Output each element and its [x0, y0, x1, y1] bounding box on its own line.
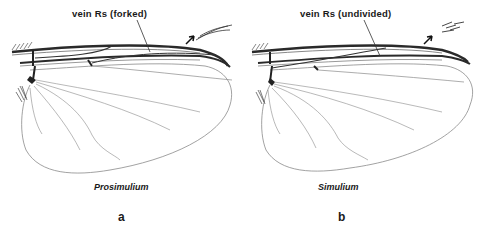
taxon-name-simulium: Simulium [318, 182, 359, 192]
panel-a-prosimulium: vein Rs (forked) Prosimulium a [0, 0, 242, 237]
panel-letter-b: b [338, 210, 345, 224]
callout-label-vein-rs-forked: vein Rs (forked) [72, 8, 147, 19]
taxon-name-prosimulium: Prosimulium [94, 182, 149, 192]
callout-label-vein-rs-undivided: vein Rs (undivided) [300, 8, 391, 19]
wing-drawing-prosimulium [0, 0, 242, 237]
panel-letter-a: a [118, 210, 125, 224]
wing-drawing-simulium [242, 0, 484, 237]
panel-b-simulium: vein Rs (undivided) Simulium b [242, 0, 484, 237]
